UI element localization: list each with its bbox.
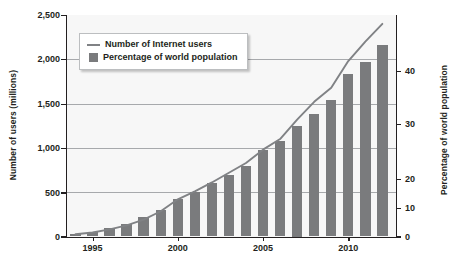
chart-figure: 2,500 2,000 1,500 1,000 500 0 40 30 20 1… [0,0,456,270]
right-tickmark-20 [396,179,401,180]
bar-2003 [224,175,234,236]
x-tickmark-1995 [93,237,94,241]
left-axis-title: Number of users (millions) [8,65,18,185]
bar-2010 [343,74,353,237]
x-tick-label-2000: 2000 [158,243,198,253]
left-tick-label-2500: 2,500 [24,10,60,20]
right-tick-label-40: 40 [405,66,431,76]
left-tickmark-2500 [61,15,66,16]
left-tickmark-0 [61,236,66,237]
bar-2008 [309,114,319,237]
bar-1999 [156,210,166,237]
box-swatch-icon [89,53,98,62]
bar-2009 [326,100,336,237]
bar-2011 [360,62,370,237]
left-tickmark-500 [61,192,66,193]
x-tickmark-2005 [263,237,264,241]
legend-label-world-population: Percentage of world population [103,51,238,64]
left-tick-label-0: 0 [24,232,60,242]
legend-item-internet-users: Number of Internet users [87,38,238,51]
bar-2002 [207,183,217,236]
left-tickmark-2000 [61,59,66,60]
left-tick-label-1500: 1,500 [24,99,60,109]
bar-2012 [377,45,387,237]
x-tick-label-1995: 1995 [73,243,113,253]
right-tickmark-10 [396,208,401,209]
right-tick-label-0: 0 [405,232,431,242]
bar-1996 [104,228,114,236]
bar-2005 [258,150,268,237]
right-axis-spine [396,15,397,237]
left-axis-spine [66,15,67,237]
left-tick-label-1000: 1,000 [24,143,60,153]
bar-2004 [241,166,251,236]
bar-2006 [275,141,285,237]
bar-2000 [173,199,183,236]
x-tick-label-2010: 2010 [328,243,368,253]
left-tickmark-1000 [61,148,66,149]
right-tickmark-40 [396,71,401,72]
chart-legend: Number of Internet users Percentage of w… [79,33,248,70]
right-tick-label-30: 30 [405,119,431,129]
legend-label-internet-users: Number of Internet users [105,38,212,51]
bar-1998 [138,217,148,236]
bar-2001 [190,192,200,237]
right-tickmark-0 [396,236,401,237]
line-swatch-icon [87,38,100,51]
bar-2007 [292,126,302,237]
x-tick-label-2005: 2005 [243,243,283,253]
bar-1997 [121,224,131,236]
left-tickmark-1500 [61,104,66,105]
right-tickmark-30 [396,124,401,125]
x-tickmark-2000 [178,237,179,241]
right-tick-label-10: 10 [405,203,431,213]
right-axis-title: Percentage of world population [439,65,449,195]
right-tick-label-20: 20 [405,174,431,184]
legend-item-world-population: Percentage of world population [87,51,238,64]
left-tick-label-2000: 2,000 [24,54,60,64]
x-tickmark-2010 [348,237,349,241]
left-tick-label-500: 500 [24,188,60,198]
